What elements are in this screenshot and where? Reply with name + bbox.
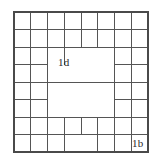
region-label-1b: 1b (132, 138, 143, 149)
grid-lines (14, 12, 148, 152)
figure-root: 1d 1b (0, 0, 162, 163)
region-label-1d: 1d (58, 57, 69, 68)
